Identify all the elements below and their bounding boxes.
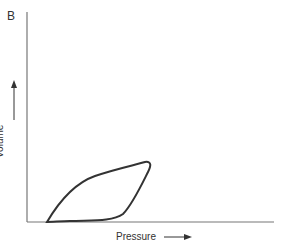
- x-axis-label: Pressure: [116, 231, 156, 242]
- pv-loop-plot: [0, 0, 281, 247]
- y-axis-label: Volume: [0, 125, 5, 158]
- hysteresis-loop: [47, 162, 150, 222]
- pressure-arrowhead-icon: [184, 234, 192, 240]
- volume-arrowhead-icon: [11, 80, 17, 88]
